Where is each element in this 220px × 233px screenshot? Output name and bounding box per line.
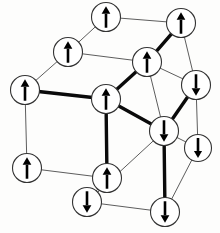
lattice-site-bottom-front-left [73, 188, 102, 217]
exchange-bond-edge [106, 112, 107, 164]
lattice-site-top-back-right [167, 9, 196, 38]
lattice-site-mid-left-front [11, 76, 40, 105]
lattice-site-upper-center [133, 48, 162, 77]
exchange-bond-edge [38, 91, 92, 97]
node-group [11, 3, 212, 227]
lattice-edge [159, 68, 184, 80]
lattice-edge [25, 103, 26, 154]
exchange-bond-edge [116, 71, 137, 90]
lattice-site-right-center [150, 117, 179, 146]
lattice-edge [150, 75, 161, 118]
lattice-edge [176, 137, 187, 142]
lattice-site-right-upper [182, 71, 211, 100]
lattice-site-mid-center-front [92, 85, 121, 114]
lattice-site-top-back-left [92, 3, 121, 32]
lattice-edge [78, 26, 96, 43]
lattice-site-right-lower-back [185, 135, 212, 162]
lattice-edge [40, 170, 93, 177]
lattice-edge [184, 36, 193, 72]
lattice-edge [35, 61, 58, 81]
lattice-site-bottom-center [93, 164, 122, 193]
exchange-bond-edge [156, 33, 172, 52]
lattice-edge [81, 54, 133, 61]
exchange-bond-edge [172, 96, 189, 120]
lattice-diagram [0, 0, 220, 233]
lattice-edge [196, 98, 197, 135]
lattice-site-bottom-right [151, 198, 180, 227]
lattice-svg [0, 0, 220, 233]
exchange-bond-edge [118, 106, 152, 125]
lattice-site-bottom-left [13, 154, 42, 183]
lattice-site-upper-left-back [54, 38, 83, 67]
lattice-edge [119, 18, 167, 22]
lattice-edge [171, 159, 192, 200]
lattice-edge [100, 204, 151, 211]
exchange-bond-edge [164, 144, 165, 198]
